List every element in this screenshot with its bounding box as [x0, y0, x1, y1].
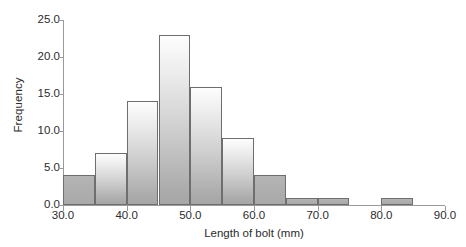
- y-axis-tick-label: 10.0: [26, 125, 60, 137]
- histogram-bar: [381, 198, 413, 205]
- y-axis-tick-label: 15.0: [26, 88, 60, 100]
- x-axis-tick-label: 60.0: [229, 210, 279, 222]
- histogram-bar: [190, 87, 222, 205]
- x-axis-tick-label: 50.0: [165, 210, 215, 222]
- y-axis-tick-label: 20.0: [26, 51, 60, 63]
- histogram-chart: Frequency 0.05.010.015.020.025.0 30.040.…: [0, 0, 466, 247]
- x-axis-tick-label: 30.0: [38, 210, 88, 222]
- x-axis-tick-labels: 30.040.050.060.070.080.090.0: [63, 210, 445, 226]
- histogram-bars: [63, 20, 445, 205]
- plot-area: [63, 20, 445, 205]
- y-axis-tick-label: 25.0: [26, 14, 60, 26]
- histogram-bar: [286, 198, 318, 205]
- x-axis-tick-label: 80.0: [356, 210, 406, 222]
- histogram-bar: [318, 198, 350, 205]
- histogram-bar: [127, 101, 159, 205]
- x-axis-title: Length of bolt (mm): [63, 227, 445, 239]
- histogram-bar: [63, 175, 95, 205]
- x-axis-tick-label: 70.0: [293, 210, 343, 222]
- histogram-bar: [95, 153, 127, 205]
- histogram-bar: [159, 35, 191, 205]
- histogram-bar: [254, 175, 286, 205]
- x-axis-tick-label: 90.0: [420, 210, 466, 222]
- histogram-bar: [222, 138, 254, 205]
- x-axis-tick-label: 40.0: [102, 210, 152, 222]
- y-axis-title-text: Frequency: [12, 77, 24, 132]
- y-axis-title: Frequency: [8, 0, 28, 210]
- y-axis-tick-label: 5.0: [26, 162, 60, 174]
